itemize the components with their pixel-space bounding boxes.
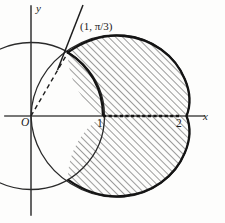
x-tick-label-2: 2 bbox=[176, 117, 182, 129]
x-tick-label-1: 1 bbox=[97, 117, 103, 129]
origin-label: O bbox=[21, 116, 29, 128]
intersection-point-marker bbox=[66, 50, 69, 53]
x-axis-label: x bbox=[203, 110, 208, 122]
polar-plot-svg bbox=[0, 0, 225, 223]
intersection-point-label: (1, π/3) bbox=[80, 20, 112, 32]
polar-figure: y x O 1 2 (1, π/3) bbox=[0, 0, 225, 223]
dashed-radius-to-intersection bbox=[31, 52, 68, 116]
y-axis-label: y bbox=[36, 2, 41, 14]
